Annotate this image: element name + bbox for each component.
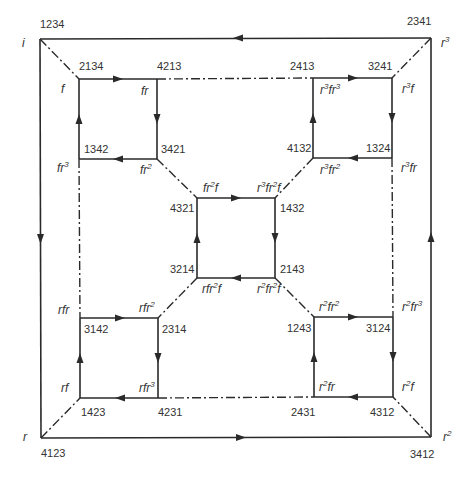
arrow-up-icon bbox=[77, 353, 84, 363]
f-edge bbox=[392, 38, 431, 78]
outer-square bbox=[37, 35, 435, 442]
arrow-up-icon bbox=[311, 352, 318, 362]
arrow-right-icon bbox=[231, 195, 241, 202]
vertex-element: r3fr bbox=[401, 160, 418, 175]
vertex-element: r2f bbox=[402, 379, 415, 394]
arrow-down-icon bbox=[389, 113, 396, 123]
vertex-element: r2fr bbox=[319, 379, 336, 394]
arrow-up-icon bbox=[194, 233, 201, 243]
square-center bbox=[194, 195, 279, 282]
arrow-left-icon bbox=[348, 394, 358, 401]
vertex-element: r bbox=[23, 430, 28, 444]
arrow-right-icon bbox=[236, 434, 246, 441]
arrow-down-icon bbox=[272, 233, 279, 243]
vertex-perm: 1243 bbox=[287, 322, 311, 334]
vertex-element: fr bbox=[141, 84, 149, 98]
vertex-perm: 2134 bbox=[79, 60, 103, 72]
vertex-element: r2fr2f bbox=[257, 281, 282, 296]
f-edge bbox=[392, 158, 393, 317]
labels-outer: 1234 i 2341 r3 3412 r2 4123 r bbox=[22, 15, 452, 460]
vertex-element: r3 bbox=[441, 35, 450, 50]
cayley-graph-diagram: 1234 i 2341 r3 3412 r2 4123 r 2134 f 421… bbox=[0, 0, 475, 478]
vertex-element: rfr2f bbox=[202, 281, 223, 296]
vertex-perm: 1432 bbox=[280, 202, 304, 214]
vertex-element: rfr3 bbox=[139, 380, 155, 395]
vertex-perm: 1324 bbox=[366, 142, 390, 154]
arrow-left-icon bbox=[115, 395, 125, 402]
vertex-element: i bbox=[22, 36, 25, 50]
arrow-right-icon bbox=[348, 314, 358, 321]
vertex-perm: 2431 bbox=[291, 406, 315, 418]
arrow-left-icon bbox=[348, 155, 358, 162]
vertex-perm: 3142 bbox=[84, 323, 108, 335]
vertex-element: r2fr2 bbox=[319, 299, 340, 314]
vertex-element: rfr bbox=[58, 303, 70, 317]
f-edge bbox=[157, 159, 197, 198]
vertex-element: r2 bbox=[443, 429, 452, 444]
vertex-perm: 4231 bbox=[158, 406, 182, 418]
arrow-down-icon bbox=[37, 234, 44, 244]
vertex-perm: 3214 bbox=[170, 263, 194, 275]
vertex-perm: 3421 bbox=[161, 143, 185, 155]
vertex-perm: 3412 bbox=[410, 448, 434, 460]
vertex-perm: 3241 bbox=[368, 60, 392, 72]
vertex-perm: 1342 bbox=[84, 143, 108, 155]
f-edge bbox=[41, 398, 80, 438]
arrow-right-icon bbox=[115, 315, 125, 322]
f-edge bbox=[158, 397, 314, 398]
arrow-up-icon bbox=[428, 232, 435, 242]
vertex-perm: 1423 bbox=[81, 406, 105, 418]
arrow-right-icon bbox=[113, 76, 123, 83]
f-edge bbox=[40, 39, 79, 79]
vertex-perm: 4123 bbox=[41, 447, 65, 459]
vertex-perm: 2143 bbox=[280, 263, 304, 275]
vertex-element: fr3 bbox=[57, 160, 69, 175]
vertex-element: rfr2 bbox=[139, 300, 155, 315]
f-edge bbox=[275, 278, 314, 317]
f-edge bbox=[393, 397, 431, 437]
arrow-left-icon bbox=[113, 156, 123, 163]
vertex-perm: 4213 bbox=[157, 60, 181, 72]
f-edges bbox=[40, 38, 431, 438]
f-edge bbox=[275, 158, 313, 198]
vertex-element: fr2f bbox=[203, 180, 220, 195]
arrow-right-icon bbox=[348, 75, 358, 82]
arrow-left-icon bbox=[233, 35, 243, 42]
vertex-perm: 2413 bbox=[290, 60, 314, 72]
arrow-down-icon bbox=[155, 353, 162, 363]
vertex-perm: 2341 bbox=[407, 15, 431, 27]
arrow-up-icon bbox=[76, 114, 83, 124]
vertex-element: rf bbox=[61, 381, 70, 395]
vertex-element: r3fr2 bbox=[320, 162, 341, 177]
arrow-left-icon bbox=[231, 275, 241, 282]
f-edge bbox=[79, 159, 80, 318]
vertex-element: r3fr2f bbox=[257, 180, 282, 195]
arrow-up-icon bbox=[310, 113, 317, 123]
arrow-down-icon bbox=[154, 114, 161, 124]
arrow-down-icon bbox=[390, 352, 397, 362]
vertex-perm: 4321 bbox=[170, 202, 194, 214]
vertex-element: r3f bbox=[402, 81, 415, 96]
vertex-element: f bbox=[61, 82, 66, 96]
f-edge bbox=[157, 78, 313, 79]
f-edge bbox=[158, 278, 197, 318]
vertex-element: r2fr3 bbox=[402, 299, 423, 314]
vertex-perm: 1234 bbox=[40, 18, 64, 30]
vertex-perm: 3124 bbox=[366, 322, 390, 334]
vertex-element: fr2 bbox=[140, 162, 152, 177]
vertex-perm: 4132 bbox=[287, 142, 311, 154]
vertex-perm: 4312 bbox=[370, 406, 394, 418]
vertex-element: r3fr3 bbox=[320, 82, 341, 97]
vertex-perm: 2314 bbox=[162, 323, 186, 335]
